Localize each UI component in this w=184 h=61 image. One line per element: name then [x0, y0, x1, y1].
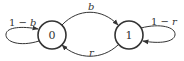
state-label-1: 1: [126, 29, 133, 42]
state-node-0: 0: [38, 21, 66, 49]
state-node-1: 1: [115, 21, 143, 49]
self-loop-edge-0: [6, 27, 39, 43]
edge-label-1-1: 1 − r: [151, 16, 178, 27]
edge-label-0-1: b: [88, 1, 94, 12]
self-loop-edge-1: [141, 26, 175, 43]
state-label-0: 0: [49, 29, 56, 42]
transition-edge-0-to-1: [62, 12, 118, 25]
edge-label-0-0: 1 − b: [9, 17, 37, 28]
markov-chain-diagram: 1 − b b r 1 − r 0 1: [0, 0, 184, 61]
